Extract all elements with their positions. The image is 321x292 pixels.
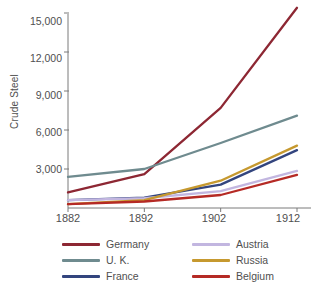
x-tick-label: 1902: [202, 212, 226, 224]
legend-item-france[interactable]: France: [62, 268, 184, 284]
legend-label-germany: Germany: [106, 239, 149, 250]
legend-swatch-france: [62, 275, 100, 278]
legend-swatch-austria: [192, 243, 230, 246]
legend-item-uk[interactable]: U. K.: [62, 252, 184, 268]
x-tick-label: 1912: [276, 212, 300, 224]
legend-label-austria: Austria: [236, 239, 269, 250]
legend-swatch-uk: [62, 259, 100, 262]
legend-label-russia: Russia: [236, 255, 268, 266]
legend-swatch-germany: [62, 243, 100, 246]
legend-item-belgium[interactable]: Belgium: [192, 268, 314, 284]
legend-item-austria[interactable]: Austria: [192, 236, 314, 252]
x-tick-label: 1892: [129, 212, 153, 224]
x-tick-label: 1882: [56, 212, 80, 224]
legend-item-russia[interactable]: Russia: [192, 252, 314, 268]
chart-container: Crude Steel 15,000 12,000 9,000 6,000 3,…: [0, 0, 321, 292]
legend-item-germany[interactable]: Germany: [62, 236, 184, 252]
legend-label-france: France: [106, 271, 139, 282]
legend-swatch-russia: [192, 259, 230, 262]
legend-label-uk: U. K.: [106, 255, 129, 266]
legend-swatch-belgium: [192, 275, 230, 278]
chart-legend: Germany Austria U. K. Russia France Belg…: [62, 236, 314, 288]
legend-label-belgium: Belgium: [236, 271, 274, 282]
